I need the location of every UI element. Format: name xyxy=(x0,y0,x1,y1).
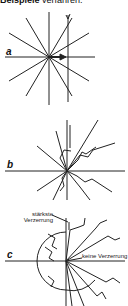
diagram-b xyxy=(5,120,125,200)
annotation-no-distortion: keine Verzerrung xyxy=(82,253,127,259)
diagram-canvas xyxy=(0,0,128,306)
annotation-strongest-distortion: stärkste Verzerrung xyxy=(17,211,53,223)
label-b: b xyxy=(7,159,13,170)
label-c: c xyxy=(7,249,13,260)
diagram-a xyxy=(5,12,95,105)
diagram-c xyxy=(5,215,125,306)
label-a: a xyxy=(6,46,12,57)
